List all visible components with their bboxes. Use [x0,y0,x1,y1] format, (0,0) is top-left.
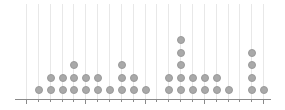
data-dot [142,86,150,94]
x-tick [239,99,240,102]
x-tick [73,99,74,102]
gridline [145,4,146,99]
gridline [85,4,86,99]
data-dot [177,61,185,69]
data-dot [118,74,126,82]
data-dot [82,74,90,82]
data-dot [82,86,90,94]
gridline [204,4,205,99]
gridline [263,4,264,99]
x-tick [97,99,98,102]
data-dot [248,61,256,69]
gridline [62,4,63,99]
data-dot [70,74,78,82]
data-dot [177,36,185,44]
data-dot [189,86,197,94]
data-dot [94,86,102,94]
gridline [168,4,169,99]
gridline [133,4,134,99]
gridline [121,4,122,99]
x-tick [145,99,146,104]
x-tick [228,99,229,102]
x-tick [180,99,181,102]
data-dot [130,86,138,94]
gridline [228,4,229,99]
x-tick [26,99,27,104]
gridline [26,4,27,99]
data-dot [225,86,233,94]
data-dot [213,74,221,82]
gridline [239,4,240,99]
data-dot [70,86,78,94]
x-tick [204,99,205,104]
data-dot [59,74,67,82]
dot-plot [0,0,285,110]
x-tick [263,99,264,104]
data-dot [118,61,126,69]
x-tick [192,99,193,102]
data-dot [165,74,173,82]
data-dot [248,86,256,94]
data-dot [201,86,209,94]
data-dot [248,74,256,82]
data-dot [201,74,209,82]
x-tick [133,99,134,102]
data-dot [177,74,185,82]
data-dot [35,86,43,94]
gridline [73,4,74,99]
data-dot [59,86,67,94]
data-dot [94,74,102,82]
data-dot [189,74,197,82]
data-dot [177,86,185,94]
data-dot [130,74,138,82]
data-dot [70,61,78,69]
gridline [156,4,157,99]
x-tick [251,99,252,102]
gridline [50,4,51,99]
x-tick [168,99,169,102]
x-tick [216,99,217,102]
data-dot [47,74,55,82]
x-tick [109,99,110,102]
x-tick [38,99,39,102]
data-dot [118,86,126,94]
data-dot [177,49,185,57]
gridline [109,4,110,99]
gridline [216,4,217,99]
gridline [38,4,39,99]
x-tick [85,99,86,104]
gridline [97,4,98,99]
data-dot [213,86,221,94]
x-tick [50,99,51,102]
gridline [192,4,193,99]
data-dot [165,86,173,94]
x-tick [156,99,157,102]
data-dot [47,86,55,94]
x-tick [121,99,122,102]
data-dot [248,49,256,57]
data-dot [106,86,114,94]
x-axis-line [15,99,271,100]
data-dot [260,86,268,94]
x-tick [62,99,63,102]
